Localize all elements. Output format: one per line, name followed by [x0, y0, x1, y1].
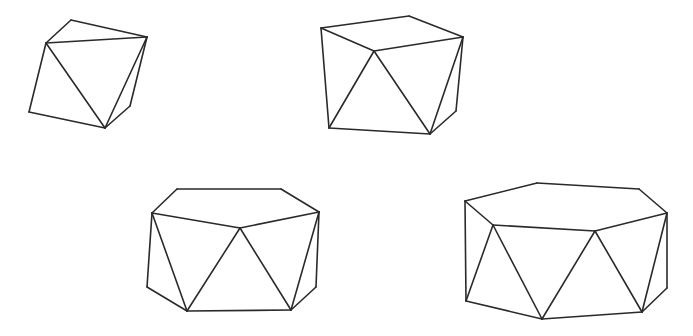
- edge: [465, 201, 493, 225]
- edge: [147, 287, 187, 311]
- edge: [71, 20, 147, 37]
- edge: [321, 28, 374, 51]
- edge: [542, 312, 642, 319]
- edge: [46, 43, 105, 128]
- edge: [130, 37, 147, 106]
- edge: [595, 231, 642, 312]
- edge: [465, 201, 466, 301]
- polyhedron-2: [321, 16, 463, 134]
- edge: [29, 112, 105, 128]
- edge: [29, 43, 46, 112]
- edge: [281, 189, 319, 212]
- edge: [240, 228, 291, 310]
- polyhedron-1: [29, 20, 147, 128]
- edge: [187, 310, 291, 311]
- edge: [493, 225, 542, 319]
- edge: [374, 37, 463, 51]
- edge: [105, 37, 147, 128]
- polyhedron-4: [465, 183, 667, 319]
- edge: [465, 183, 537, 201]
- edge: [240, 212, 319, 228]
- edge: [493, 225, 595, 231]
- edge: [642, 213, 667, 312]
- edge: [147, 213, 152, 287]
- edge: [329, 51, 374, 128]
- polyhedra-figure: [0, 0, 693, 336]
- edge: [374, 51, 430, 134]
- edge: [105, 106, 130, 128]
- edge: [187, 228, 240, 311]
- edge: [595, 213, 667, 231]
- edge: [46, 20, 71, 43]
- edge: [639, 189, 667, 213]
- edge: [152, 189, 177, 213]
- edge: [466, 225, 493, 301]
- edge: [409, 16, 463, 37]
- polyhedron-3: [147, 189, 319, 311]
- edge: [466, 301, 542, 319]
- edge: [321, 16, 409, 28]
- edge: [537, 183, 639, 189]
- edge: [152, 213, 240, 228]
- edge: [321, 28, 329, 128]
- edge: [46, 37, 147, 43]
- edge: [329, 128, 430, 134]
- edge: [291, 212, 319, 310]
- edge: [542, 231, 595, 319]
- edge: [152, 213, 187, 311]
